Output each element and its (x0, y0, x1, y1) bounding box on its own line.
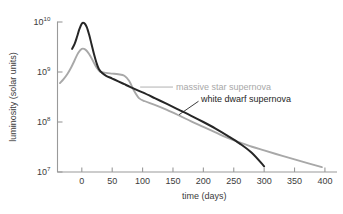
y-tick-label: 1010 (34, 15, 51, 27)
x-axis-tick-labels: 050100150200250300350400 (79, 176, 332, 186)
axis-spines (58, 22, 338, 173)
y-tick-label: 107 (37, 165, 51, 177)
x-tick-label: 300 (257, 176, 272, 186)
x-tick-label: 250 (226, 176, 241, 186)
x-tick-label: 50 (107, 176, 117, 186)
y-tick-label: 109 (37, 65, 51, 77)
series-massive-star-supernova (60, 49, 322, 168)
y-axis-title: luminosity (solar units) (8, 52, 18, 142)
y-axis-ticks (58, 22, 63, 172)
annotation-label: massive star supernova (176, 82, 271, 92)
x-tick-label: 0 (79, 176, 84, 186)
supernova-light-curve-figure: 050100150200250300350400 1071081091010 m… (0, 0, 343, 214)
light-curve-chart: 050100150200250300350400 1071081091010 m… (0, 0, 343, 214)
curve-annotations: massive star supernovawhite dwarf supern… (140, 82, 291, 114)
annotation-leader-line (179, 101, 198, 114)
x-tick-label: 100 (135, 176, 150, 186)
x-tick-label: 350 (287, 176, 302, 186)
x-axis-title: time (days) (182, 191, 227, 201)
y-tick-label: 108 (37, 115, 51, 127)
x-tick-label: 150 (165, 176, 180, 186)
x-axis-ticks (82, 168, 325, 173)
x-tick-label: 400 (317, 176, 332, 186)
y-axis-tick-labels: 1071081091010 (34, 15, 51, 177)
x-tick-label: 200 (196, 176, 211, 186)
annotation-label: white dwarf supernova (200, 94, 291, 104)
axes-group: 050100150200250300350400 1071081091010 (34, 15, 337, 185)
